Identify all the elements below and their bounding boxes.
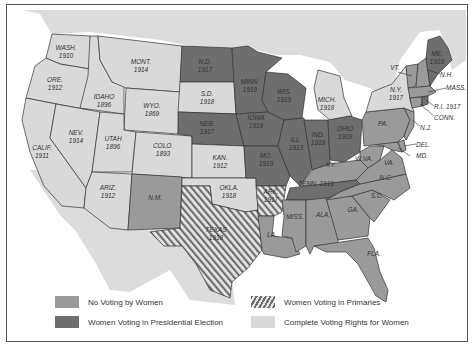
state-kan — [192, 144, 246, 178]
swatch-primaries — [251, 296, 275, 308]
label-kan: KAN. — [212, 154, 227, 161]
label-vt: VT. — [390, 64, 400, 71]
label-neb-year: 1917 — [200, 128, 215, 135]
label-mich: MICH. — [318, 96, 337, 103]
label-ore: ORE. — [47, 76, 63, 83]
label-colo: COLO. — [153, 142, 173, 149]
label-ny: N.Y. — [390, 86, 402, 93]
label-wyo-year: 1869 — [145, 110, 160, 117]
label-mass: MASS. — [446, 84, 466, 91]
label-me: ME. — [431, 50, 443, 57]
label-wash-year: 1910 — [59, 52, 74, 59]
label-del: DEL. — [416, 141, 431, 148]
state-nm — [128, 174, 182, 230]
label-conn: CONN. — [434, 114, 455, 121]
state-conn — [410, 97, 422, 108]
label-calif-year: 1911 — [35, 152, 49, 159]
label-idaho: IDAHO — [94, 93, 115, 100]
label-calif: CALIF. — [32, 144, 52, 151]
label-colo-year: 1893 — [156, 150, 171, 157]
label-nj: N.J. — [420, 124, 432, 131]
swatch-complete — [251, 316, 275, 328]
legend-complete: Complete Voting Rights for Women — [251, 316, 409, 328]
label-tenn: TENN. 1919 — [298, 180, 334, 187]
label-la: LA. — [267, 231, 277, 238]
label-ark: ARK. — [262, 188, 278, 195]
label-ariz-year: 1912 — [101, 192, 116, 199]
label-minn-year: 1919 — [243, 86, 258, 93]
label-ky: KY. — [326, 161, 336, 168]
label-utah-year: 1896 — [106, 143, 121, 150]
swatch-no-voting — [55, 296, 79, 308]
label-iowa-year: 1919 — [249, 122, 264, 129]
legend-label-no-voting: No Voting by Women — [88, 298, 163, 307]
label-texas-year: 1918 — [209, 234, 224, 241]
label-mont: MONT. — [131, 58, 152, 65]
swatch-presidential — [55, 316, 79, 328]
legend-label-presidential: Women Voting in Presidential Election — [88, 318, 223, 327]
label-sd-year: 1918 — [200, 98, 215, 105]
label-nm: N.M. — [148, 194, 162, 201]
label-ore-year: 1912 — [48, 84, 63, 91]
label-ohio: OHIO — [337, 125, 354, 132]
label-ohio-year: 1919 — [338, 133, 353, 140]
label-mich-year: 1918 — [320, 104, 335, 111]
label-ga: GA. — [347, 206, 358, 213]
label-neb: NEB. — [199, 120, 214, 127]
label-mo: MO. — [260, 152, 272, 159]
state-mass — [408, 86, 436, 98]
label-wis: WIS. — [277, 88, 291, 95]
label-va: VA. — [384, 159, 394, 166]
label-mont-year: 1914 — [134, 66, 149, 73]
label-wyo: WYO. — [143, 102, 161, 109]
label-ark-year: 1917 — [264, 196, 279, 203]
label-wva: W.VA. — [355, 155, 373, 162]
label-okla-year: 1918 — [222, 192, 237, 199]
label-sd: S.D. — [201, 90, 214, 97]
label-ny-year: 1917 — [389, 94, 404, 101]
label-pa: PA. — [378, 120, 388, 127]
label-sc: S.C. — [371, 192, 384, 199]
legend-label-primaries: Women Voting in Primaries — [284, 298, 380, 307]
label-texas: TEXAS — [205, 226, 227, 233]
label-ariz: ARIZ. — [99, 184, 117, 191]
label-me-year: 1919 — [430, 58, 445, 65]
label-nd-year: 1917 — [198, 66, 213, 73]
label-ind-year: 1919 — [311, 139, 326, 146]
label-nev-year: 1914 — [69, 137, 84, 144]
label-idaho-year: 1896 — [97, 101, 112, 108]
label-ill: ILL. — [291, 136, 302, 143]
legend-no-voting: No Voting by Women — [55, 296, 163, 308]
label-iowa: IOWA — [247, 114, 264, 121]
label-nd: N.D. — [199, 58, 212, 65]
label-miss: MISS. — [286, 213, 304, 220]
label-ill-year: 1913 — [289, 144, 304, 151]
label-wis-year: 1919 — [277, 96, 292, 103]
label-minn: MINN. — [241, 78, 260, 85]
legend-primaries: Women Voting in Primaries — [251, 296, 380, 308]
legend-presidential: Women Voting in Presidential Election — [55, 316, 223, 328]
label-ala: ALA. — [315, 211, 330, 218]
label-nev: NEV. — [69, 129, 84, 136]
label-nc: N.C. — [380, 174, 393, 181]
label-wash: WASH. — [55, 44, 76, 51]
label-mo-year: 1919 — [259, 160, 274, 167]
label-nh: N.H. — [440, 71, 453, 78]
label-md: MD. — [416, 152, 428, 159]
legend-label-complete: Complete Voting Rights for Women — [284, 318, 409, 327]
legend: No Voting by Women Women Voting in Presi… — [55, 296, 455, 336]
label-ri: R.I. 1917 — [434, 103, 461, 110]
label-fla: FLA. — [367, 250, 381, 257]
label-utah: UTAH — [104, 135, 122, 142]
state-fla — [314, 238, 388, 302]
label-okla: OKLA. — [219, 184, 238, 191]
label-kan-year: 1912 — [213, 162, 228, 169]
label-ind: IND. — [312, 131, 325, 138]
